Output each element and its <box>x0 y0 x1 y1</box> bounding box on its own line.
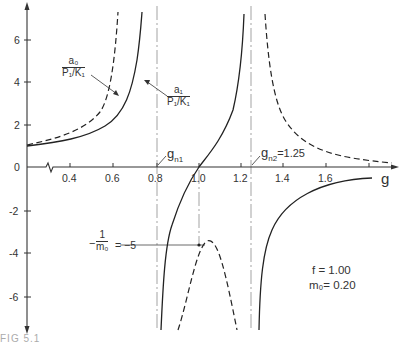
x-tick-label: 1.6 <box>318 173 333 184</box>
a0-curve-middle <box>178 241 237 330</box>
a0-label-denominator: P₁/K₁ <box>62 68 85 79</box>
gn2-label: gn2=1.25 <box>261 146 305 163</box>
a1-label-numerator: a₁ <box>167 85 190 97</box>
a0-curve-left <box>27 12 118 145</box>
x-ticks <box>70 163 369 167</box>
gn2-leader-line <box>252 156 260 165</box>
a1-leader-arrow-icon <box>144 80 150 85</box>
m0-reciprocal-denominator: m₀ <box>96 242 108 253</box>
a1-leader-line <box>146 81 167 96</box>
m0-parameter: m₀= 0.20 <box>309 280 356 292</box>
a1-label-denominator: P₁/K₁ <box>167 97 190 108</box>
x-tick-label: 1.0 <box>191 173 206 184</box>
m0-reciprocal-numerator: 1 <box>96 230 108 242</box>
y-tick-label: -4 <box>9 248 18 259</box>
m0-reciprocal-value: = −5 <box>115 240 136 251</box>
gn1-leader-line <box>158 156 166 165</box>
y-tick-label: -2 <box>9 206 18 217</box>
y-tick-label: 4 <box>14 77 20 88</box>
figure-caption: FIG 5.1 <box>0 333 40 344</box>
a0-label: a₀ P₁/K₁ <box>62 56 85 78</box>
a1-label: a₁ P₁/K₁ <box>167 85 190 107</box>
a0-leader-line <box>91 75 117 94</box>
x-axis <box>27 163 393 172</box>
gn1-subscript: n1 <box>174 155 183 164</box>
a1-curve-right <box>259 178 372 330</box>
x-tick-label: 0.4 <box>62 173 77 184</box>
minus-five-point <box>197 243 200 246</box>
y-tick-label: 2 <box>14 120 20 131</box>
x-axis-label: g <box>381 171 389 186</box>
m0-reciprocal-label: 1 m₀ <box>96 230 108 252</box>
y-tick-label: 6 <box>14 35 20 46</box>
gn2-value: =1.25 <box>277 147 305 159</box>
a0-leader-arrow-icon <box>113 90 119 96</box>
x-axis-arrow-icon <box>391 165 399 170</box>
y-tick-label: 0 <box>14 162 20 173</box>
a0-curve-right <box>265 14 392 163</box>
gn1-label: gn1 <box>167 147 183 164</box>
x-tick-label: 0.8 <box>148 173 163 184</box>
y-tick-label: -6 <box>9 292 18 303</box>
gn2-subscript: n2 <box>268 154 277 163</box>
x-tick-label: 1.4 <box>275 173 290 184</box>
y-axis-arrow-up-icon <box>25 2 30 10</box>
m0-minus-sign: − <box>89 238 95 249</box>
x-tick-label: 1.2 <box>233 173 248 184</box>
a0-label-numerator: a₀ <box>62 56 85 68</box>
x-tick-label: 0.6 <box>105 173 120 184</box>
f-parameter: f = 1.00 <box>312 265 351 277</box>
